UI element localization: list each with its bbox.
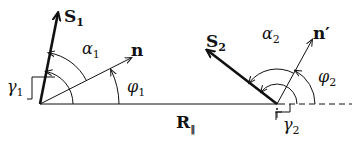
arc-phi2 (295, 71, 315, 104)
label-s1: S1 (64, 6, 84, 29)
label-phi1: φ1 (127, 77, 145, 99)
label-n-prime: n′ (313, 23, 330, 43)
label-gamma1: γ1 (7, 77, 24, 99)
vector-s2 (207, 50, 277, 104)
arc-phi1 (111, 70, 119, 104)
label-s2: S2 (206, 31, 226, 54)
label-phi2: φ2 (318, 67, 336, 89)
vector-diagram: S1 α1 n φ1 γ1 R‖ S2 α2 n′ φ2 γ2 (0, 0, 361, 144)
vector-n (40, 58, 131, 104)
arc-alpha1 (49, 53, 86, 81)
label-n: n (131, 40, 143, 60)
label-gamma2: γ2 (283, 115, 300, 137)
label-alpha2: α2 (262, 24, 280, 46)
label-alpha1: α1 (82, 39, 100, 61)
vector-s1 (40, 13, 58, 104)
arc-alpha2 (249, 69, 293, 83)
label-r-parallel: R‖ (176, 112, 195, 135)
